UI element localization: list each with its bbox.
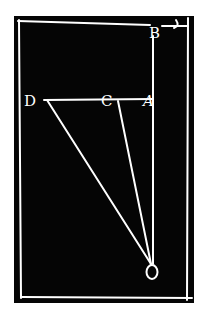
label-A: A (141, 92, 154, 110)
frame-bottom-line (21, 297, 192, 298)
label-B: B (149, 24, 160, 42)
black-panel (14, 16, 194, 303)
geometry-diagram: B D C A (0, 0, 206, 320)
line-DA (44, 99, 153, 100)
frame-right-line (187, 18, 188, 300)
label-D: D (24, 92, 36, 110)
label-C: C (101, 92, 112, 110)
